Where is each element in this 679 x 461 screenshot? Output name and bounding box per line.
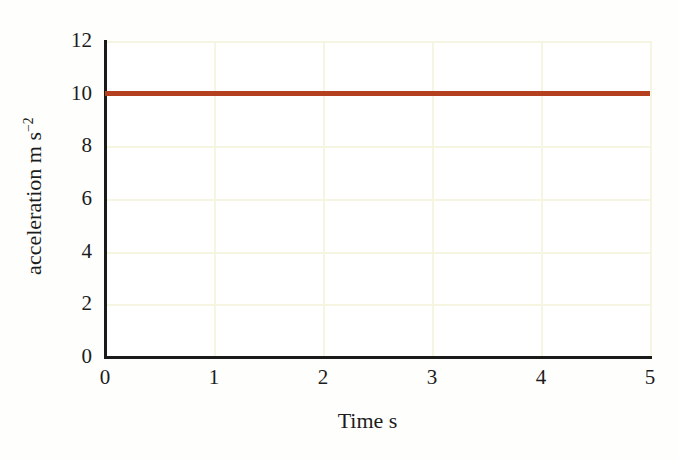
x-axis-line (104, 356, 652, 359)
x-axis-title-text: Time s (282, 408, 398, 433)
x-axis-tick-label: 0 (85, 367, 125, 388)
x-axis-tick-label: 4 (521, 367, 561, 388)
y-axis-title: acceleration m s−2 (21, 31, 47, 361)
y-axis-title-exponent: −2 (21, 117, 36, 132)
gridline-horizontal (105, 199, 650, 201)
gridline-horizontal (105, 146, 650, 148)
y-axis-line (104, 40, 107, 359)
x-axis-tick-label: 2 (303, 367, 343, 388)
x-axis-tick-label: 3 (412, 367, 452, 388)
gridline-horizontal (105, 304, 650, 306)
plot-area (105, 41, 650, 357)
gridline-horizontal (105, 252, 650, 254)
x-axis-tick-label: 5 (630, 367, 670, 388)
chart-figure: 024681012 012345 Time s acceleration m s… (0, 0, 679, 461)
gridline-horizontal (105, 41, 650, 43)
gridline-vertical (650, 41, 652, 357)
x-axis-tick-label: 1 (194, 367, 234, 388)
line-series-acceleration (105, 91, 650, 96)
x-axis-title: Time s (0, 408, 679, 434)
y-axis-title-text: acceleration m s (21, 132, 46, 275)
